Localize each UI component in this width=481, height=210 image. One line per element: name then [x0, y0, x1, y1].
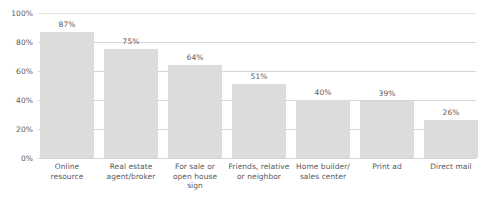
y-axis-tick-label: 20%: [16, 125, 33, 134]
category-label-line: Real estate: [98, 162, 164, 172]
bar: [168, 65, 222, 158]
bar: [40, 32, 94, 158]
category-label: Onlineresource: [34, 162, 100, 181]
category-label-line: sign: [162, 181, 228, 191]
category-label: Friends, relativeor neighbor: [226, 162, 292, 181]
category-label: Print ad: [354, 162, 420, 172]
bars-layer: 87%75%64%51%40%39%26%: [38, 13, 476, 158]
bar-value-label: 87%: [59, 20, 76, 29]
category-label-line: Home builder/: [290, 162, 356, 172]
category-label-line: Print ad: [354, 162, 420, 172]
bar-value-label: 75%: [123, 37, 140, 46]
y-axis: 0%20%40%60%80%100%: [0, 13, 33, 158]
category-label: Direct mail: [418, 162, 481, 172]
category-axis: OnlineresourceReal estateagent/brokerFor…: [38, 162, 476, 208]
bar-value-label: 51%: [251, 72, 268, 81]
category-label: Real estateagent/broker: [98, 162, 164, 181]
bar: [296, 100, 350, 158]
category-label-line: sales center: [290, 172, 356, 182]
category-label-line: or neighbor: [226, 172, 292, 182]
y-axis-tick-label: 80%: [16, 38, 33, 47]
category-label: Home builder/sales center: [290, 162, 356, 181]
bar-value-label: 39%: [379, 89, 396, 98]
category-label-line: For sale or: [162, 162, 228, 172]
bar: [360, 101, 414, 158]
category-label-line: agent/broker: [98, 172, 164, 182]
category-label-line: Friends, relative: [226, 162, 292, 172]
bar-value-label: 40%: [315, 88, 332, 97]
y-axis-tick-label: 60%: [16, 67, 33, 76]
y-axis-tick-label: 40%: [16, 96, 33, 105]
y-axis-tick-label: 0%: [21, 154, 33, 163]
category-label-line: Direct mail: [418, 162, 481, 172]
category-label: For sale oropen housesign: [162, 162, 228, 191]
bar-chart: 0%20%40%60%80%100% 87%75%64%51%40%39%26%…: [0, 0, 481, 210]
category-label-line: resource: [34, 172, 100, 182]
bar: [104, 49, 158, 158]
category-label-line: Online: [34, 162, 100, 172]
bar-value-label: 64%: [187, 53, 204, 62]
bar: [232, 84, 286, 158]
y-axis-tick-label: 100%: [11, 9, 33, 18]
gridline-0: [38, 158, 476, 159]
category-label-line: open house: [162, 172, 228, 182]
bar: [424, 120, 478, 158]
bar-value-label: 26%: [443, 108, 460, 117]
